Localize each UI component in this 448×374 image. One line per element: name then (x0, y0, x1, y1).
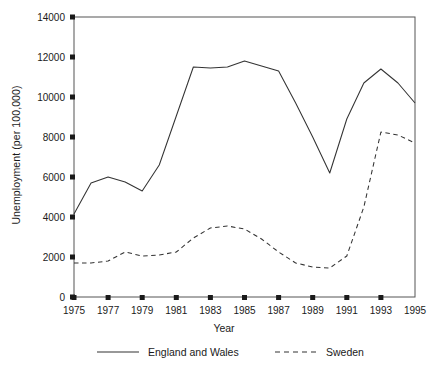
y-tick-label: 14000 (37, 12, 65, 23)
line-chart-plot: 02000400060008000100001200014000 1975197… (0, 0, 448, 374)
x-tick-label: 1991 (336, 305, 359, 316)
x-tick-mark (310, 295, 315, 300)
x-tick-mark (344, 295, 349, 300)
legend-solid-line-icon (97, 347, 139, 357)
y-tick-mark (70, 215, 75, 220)
series-line-england-and-wales (74, 61, 415, 214)
y-tick-label: 10000 (37, 92, 65, 103)
x-tick-label: 1977 (97, 305, 120, 316)
x-tick-label: 1989 (302, 305, 325, 316)
y-tick-mark (70, 135, 75, 140)
legend-label-sweden: Sweden (326, 346, 364, 358)
y-axis-tick-labels: 02000400060008000100001200014000 (37, 12, 65, 303)
series-line-sweden (74, 132, 415, 268)
y-tick-label: 4000 (43, 212, 66, 223)
x-axis-title-text: Year (0, 322, 448, 334)
x-tick-mark (378, 295, 383, 300)
y-axis-title-text: Unemployment (per 100,000) (10, 85, 22, 224)
y-tick-label: 8000 (43, 132, 66, 143)
y-tick-label: 0 (59, 292, 65, 303)
chart-figure: 02000400060008000100001200014000 1975197… (0, 0, 448, 374)
x-tick-label: 1981 (165, 305, 188, 316)
legend-item-england-and-wales: England and Wales (97, 344, 239, 360)
chart-legend: England and Wales Sweden (0, 344, 448, 366)
x-axis-tick-labels: 1975197719791981198319851987198919911993… (63, 305, 427, 316)
y-tick-mark (70, 55, 75, 60)
x-tick-label: 1995 (404, 305, 427, 316)
legend-item-sweden: Sweden (275, 344, 364, 360)
y-tick-label: 12000 (37, 52, 65, 63)
y-tick-mark (70, 255, 75, 260)
data-series-lines (74, 61, 415, 268)
y-tick-label: 2000 (43, 252, 66, 263)
x-tick-mark (208, 295, 213, 300)
x-tick-label: 1987 (267, 305, 290, 316)
x-tick-mark (106, 295, 111, 300)
x-tick-mark (276, 295, 281, 300)
x-tick-label: 1975 (63, 305, 86, 316)
x-tick-mark (140, 295, 145, 300)
x-tick-mark (72, 295, 77, 300)
y-tick-mark (70, 175, 75, 180)
x-tick-mark (242, 295, 247, 300)
legend-dashed-line-icon (275, 347, 317, 357)
x-tick-mark (174, 295, 179, 300)
legend-label-england-and-wales: England and Wales (148, 346, 239, 358)
x-tick-label: 1979 (131, 305, 154, 316)
y-axis-title: Unemployment (per 100,000) (6, 0, 26, 310)
x-tick-label: 1993 (370, 305, 393, 316)
y-tick-mark (70, 95, 75, 100)
x-tick-label: 1985 (233, 305, 256, 316)
y-tick-mark (70, 15, 75, 20)
y-tick-label: 6000 (43, 172, 66, 183)
x-tick-label: 1983 (199, 305, 222, 316)
plot-frame (74, 17, 415, 297)
